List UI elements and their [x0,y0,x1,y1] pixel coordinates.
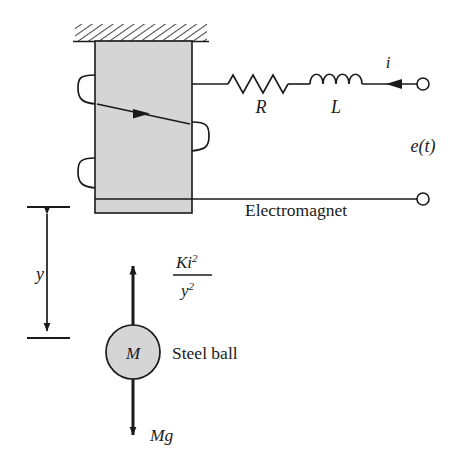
magnetic-force-label: Ki2 y2 [173,252,212,300]
electromagnet-core [95,41,192,213]
resistor-label: R [255,97,267,117]
current-label: i [386,53,391,72]
electromagnet-label: Electromagnet [245,200,347,220]
force-numerator-exponent: 2 [192,252,198,264]
source-voltage-label: e(t) [411,136,436,157]
gap-distance-label: y [34,264,44,284]
svg-text:Ki2: Ki2 [175,252,198,272]
svg-text:y2: y2 [179,280,195,300]
top-terminal-node [417,78,429,90]
force-denominator: y [179,281,189,300]
figure-canvas: R L i e(t) Electromagnet y Ki2 y2 M Stee… [0,0,458,455]
ball-mass-label: M [125,344,141,363]
force-denominator-exponent: 2 [189,280,195,292]
steel-ball-label: Steel ball [172,343,238,363]
inductor-label: L [330,97,341,117]
top-circuit-branch [192,74,417,93]
bottom-terminal-node [417,193,429,205]
gap-dimension-arrow [27,207,70,338]
hatched-ceiling [73,24,209,42]
current-direction-arrow [386,79,402,89]
force-numerator: Ki [175,253,192,272]
magnetic-suspension-diagram: R L i e(t) Electromagnet y Ki2 y2 M Stee… [0,0,458,455]
weight-force-label: Mg [149,425,174,445]
